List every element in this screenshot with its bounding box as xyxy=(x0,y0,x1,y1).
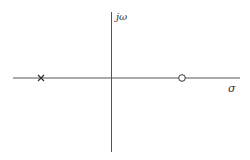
pole-zero-plot: jω σ xyxy=(0,0,250,160)
zero-marker-icon xyxy=(179,75,186,82)
imaginary-axis-label: jω xyxy=(114,11,127,22)
real-axis-label: σ xyxy=(228,82,236,95)
